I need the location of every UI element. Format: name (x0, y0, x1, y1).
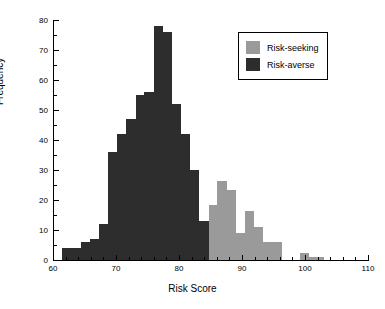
y-minor-tick (54, 245, 57, 246)
x-minor-tick (129, 257, 130, 260)
x-minor-tick (217, 257, 218, 260)
x-tick-label: 70 (112, 264, 121, 273)
y-major-tick (54, 20, 59, 21)
y-tick-label: 10 (32, 226, 48, 235)
x-minor-tick (103, 257, 104, 260)
histogram-bar (199, 221, 208, 260)
histogram-bar (154, 26, 163, 260)
histogram-bar (99, 224, 108, 260)
x-major-tick (368, 255, 369, 260)
y-minor-tick (54, 35, 57, 36)
x-minor-tick (267, 257, 268, 260)
histogram-bar (71, 248, 80, 260)
y-minor-tick (54, 95, 57, 96)
y-tick-label: 0 (32, 256, 48, 265)
histogram-bar (172, 104, 181, 260)
x-tick-label: 80 (175, 264, 184, 273)
y-minor-tick (54, 125, 57, 126)
x-tick-label: 90 (238, 264, 247, 273)
histogram-bar (117, 134, 126, 260)
y-major-tick (54, 80, 59, 81)
histogram-bar (217, 181, 226, 261)
histogram-bar (81, 242, 90, 260)
y-major-tick (54, 140, 59, 141)
y-major-tick (54, 50, 59, 51)
histogram-bar (245, 211, 254, 261)
x-minor-tick (66, 257, 67, 260)
y-tick-label: 40 (32, 136, 48, 145)
histogram-bar (227, 190, 236, 261)
y-minor-tick (54, 215, 57, 216)
x-minor-tick (318, 257, 319, 260)
x-major-tick (179, 255, 180, 260)
x-minor-tick (280, 257, 281, 260)
y-tick-label: 20 (32, 196, 48, 205)
x-minor-tick (166, 257, 167, 260)
x-minor-tick (91, 257, 92, 260)
legend-item-risk-seeking: Risk-seeking (246, 39, 319, 56)
x-axis-label: Risk Score (0, 283, 385, 294)
histogram-bar (126, 119, 135, 260)
x-minor-tick (154, 257, 155, 260)
y-tick-label: 30 (32, 166, 48, 175)
x-minor-tick (229, 257, 230, 260)
x-minor-tick (78, 257, 79, 260)
x-minor-tick (330, 257, 331, 260)
y-major-tick (54, 110, 59, 111)
y-tick-label: 60 (32, 76, 48, 85)
x-tick-label: 60 (49, 264, 58, 273)
legend-label-risk-seeking: Risk-seeking (267, 43, 319, 53)
x-minor-tick (192, 257, 193, 260)
y-minor-tick (54, 65, 57, 66)
y-tick-label: 80 (32, 16, 48, 25)
y-minor-tick (54, 155, 57, 156)
x-minor-tick (204, 257, 205, 260)
y-major-tick (54, 170, 59, 171)
histogram-bar (144, 92, 153, 260)
y-minor-tick (54, 185, 57, 186)
x-tick-label: 110 (362, 264, 375, 273)
y-major-tick (54, 200, 59, 201)
x-major-tick (242, 255, 243, 260)
x-axis-line (53, 260, 369, 261)
x-minor-tick (355, 257, 356, 260)
legend-swatch-risk-averse (246, 58, 260, 71)
legend-swatch-risk-seeking (246, 41, 260, 54)
x-tick-label: 100 (298, 264, 311, 273)
histogram-bar (62, 248, 71, 260)
histogram-bar (181, 134, 190, 260)
histogram-bar (190, 170, 199, 260)
histogram-bar (209, 205, 218, 261)
y-tick-label: 50 (32, 106, 48, 115)
histogram-bar (163, 32, 172, 260)
legend-label-risk-averse: Risk-averse (267, 60, 315, 70)
y-major-tick (54, 230, 59, 231)
histogram-bar (136, 95, 145, 260)
y-major-tick (54, 260, 59, 261)
histogram-figure: 6070809010011001020304050607080 Risk Sco… (0, 0, 385, 309)
legend-item-risk-averse: Risk-averse (246, 56, 319, 73)
x-minor-tick (343, 257, 344, 260)
y-axis-label: Frequency (0, 58, 5, 105)
histogram-bar (108, 152, 117, 260)
x-major-tick (305, 255, 306, 260)
chart-legend: Risk-seeking Risk-averse (238, 32, 328, 80)
x-major-tick (116, 255, 117, 260)
x-minor-tick (255, 257, 256, 260)
x-minor-tick (292, 257, 293, 260)
y-tick-label: 70 (32, 46, 48, 55)
x-minor-tick (141, 257, 142, 260)
histogram-bar (254, 227, 263, 260)
histogram-bar (236, 233, 245, 260)
